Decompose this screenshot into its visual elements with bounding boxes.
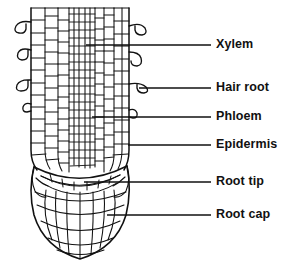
label-epidermis: Epidermis	[216, 138, 277, 151]
root-tip-cells	[41, 174, 120, 194]
root-hairs-left	[15, 22, 31, 113]
root-anatomy-diagram: Xylem Hair root Phloem Epidermis Root ti…	[0, 0, 290, 274]
label-phloem: Phloem	[216, 110, 262, 123]
cell-walls-col-5	[104, 15, 114, 158]
label-xylem: Xylem	[216, 38, 253, 51]
vascular-cross-walls	[69, 14, 95, 166]
label-hair-root: Hair root	[216, 81, 269, 94]
cortex-cell-columns-left	[45, 8, 69, 172]
cell-walls-col-1	[31, 20, 46, 155]
root-hairs-right	[129, 24, 148, 118]
cell-walls-col-2	[45, 16, 59, 160]
label-root-cap: Root cap	[216, 208, 270, 221]
label-root-tip: Root tip	[216, 175, 264, 188]
cell-walls-col-3	[58, 20, 69, 163]
cell-walls-col-4	[95, 18, 104, 161]
cell-walls-col-6	[113, 21, 129, 155]
root-cap-cell-files	[45, 190, 115, 258]
vascular-cylinder	[74, 8, 95, 168]
